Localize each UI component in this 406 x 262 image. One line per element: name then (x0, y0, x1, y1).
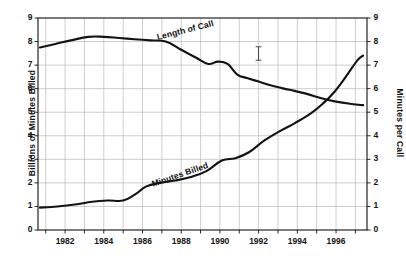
chart-figure: Billions of Minutes Billed Minutes per C… (0, 0, 406, 262)
x-axis-tick-1990: 1990 (203, 236, 237, 246)
y-axis-right-title: Minutes per Call (395, 33, 405, 213)
y-axis-left-tick-5: 5 (19, 106, 33, 116)
x-axis-tick-1996: 1996 (319, 236, 353, 246)
y-axis-right-tick-1: 1 (374, 200, 388, 210)
y-axis-right-tick-0: 0 (374, 224, 388, 234)
y-axis-left-tick-6: 6 (19, 83, 33, 93)
y-axis-right-tick-6: 6 (374, 83, 388, 93)
x-axis-tick-1984: 1984 (87, 236, 121, 246)
y-axis-right-tick-9: 9 (374, 12, 388, 22)
y-axis-left-tick-2: 2 (19, 177, 33, 187)
y-axis-left-tick-4: 4 (19, 130, 33, 140)
y-axis-right-tick-7: 7 (374, 59, 388, 69)
x-axis-tick-1988: 1988 (164, 236, 198, 246)
y-axis-left-tick-9: 9 (19, 12, 33, 22)
x-axis-tick-1982: 1982 (48, 236, 82, 246)
y-axis-left-tick-7: 7 (19, 59, 33, 69)
y-axis-left-tick-8: 8 (19, 36, 33, 46)
plot-background (38, 18, 367, 230)
y-axis-right-tick-2: 2 (374, 177, 388, 187)
y-axis-right-tick-3: 3 (374, 153, 388, 163)
y-axis-left-tick-1: 1 (19, 200, 33, 210)
plot-area (0, 0, 406, 262)
x-axis-tick-1992: 1992 (242, 236, 276, 246)
y-axis-right-tick-4: 4 (374, 130, 388, 140)
x-axis-tick-1994: 1994 (280, 236, 314, 246)
x-axis-tick-1986: 1986 (126, 236, 160, 246)
y-axis-left-tick-3: 3 (19, 153, 33, 163)
y-axis-right-tick-8: 8 (374, 36, 388, 46)
y-axis-right-tick-5: 5 (374, 106, 388, 116)
y-axis-left-tick-0: 0 (19, 224, 33, 234)
